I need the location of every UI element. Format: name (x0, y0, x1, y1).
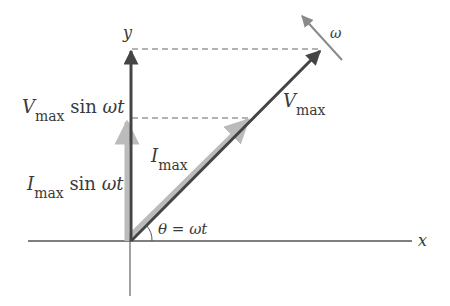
y-axis-label: y (122, 23, 133, 42)
diagram-canvas: y x ω θ = ωt Vmax Imax Vmax sin ωt Imax … (0, 0, 450, 306)
angle-label: θ = ωt (158, 220, 208, 238)
voltage-projection-label: Vmax sin ωt (22, 96, 125, 124)
x-axis-label: x (418, 231, 427, 250)
current-projection-label: Imax sin ωt (26, 173, 124, 201)
omega-label: ω (330, 25, 342, 41)
angle-arc (146, 225, 152, 241)
current-phasor-label: Imax (150, 145, 188, 173)
phasor-diagram: y x ω θ = ωt Vmax Imax Vmax sin ωt Imax … (0, 0, 450, 306)
voltage-phasor-label: Vmax (283, 90, 326, 118)
voltage-phasor-arrow (131, 51, 320, 241)
